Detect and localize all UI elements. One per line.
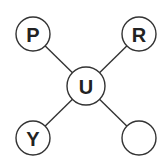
node-top-left: P bbox=[16, 17, 50, 51]
node-bottom-right-empty bbox=[122, 121, 156, 155]
node-label: Y bbox=[26, 128, 40, 150]
node-label: R bbox=[132, 24, 147, 46]
node-bottom-left: Y bbox=[16, 121, 50, 155]
node-center: U bbox=[67, 67, 105, 105]
star-diagram: P R U Y bbox=[0, 0, 164, 165]
node-top-right: R bbox=[122, 17, 156, 51]
node-label: U bbox=[79, 76, 93, 98]
node-circle bbox=[122, 121, 156, 155]
node-label: P bbox=[26, 24, 39, 46]
